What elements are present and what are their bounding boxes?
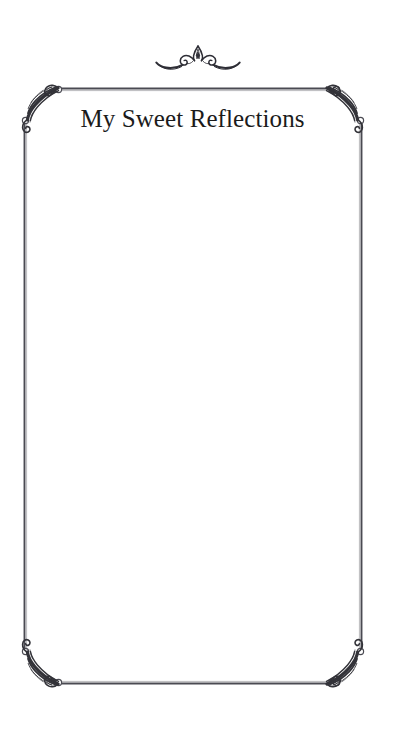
knob-bottom-left	[55, 679, 61, 685]
top-flourish-ornament	[148, 42, 248, 74]
scrollwork-flourish-icon	[148, 42, 248, 74]
knob-bottom-right	[333, 679, 339, 685]
page-title: My Sweet Reflections	[24, 104, 361, 134]
journal-page: My Sweet Reflections	[0, 0, 395, 733]
knob-top-right	[333, 86, 339, 92]
knob-top-left	[55, 86, 61, 92]
knob-right-bottom	[357, 648, 363, 654]
journal-writing-area[interactable]	[28, 148, 357, 678]
